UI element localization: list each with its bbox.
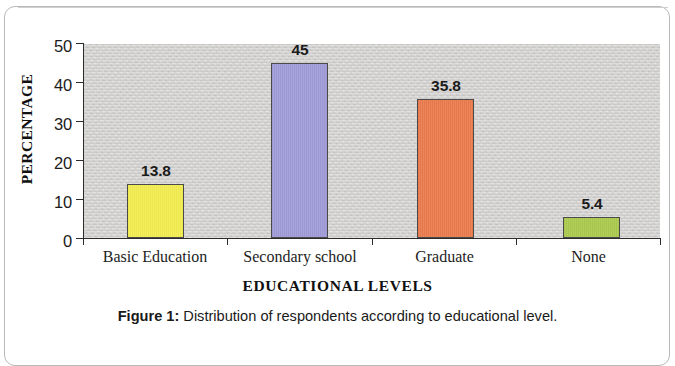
y-tick-label-30: 30 [38,115,72,134]
y-tick-mark-20 [76,160,83,161]
figure-caption-label: Figure 1: [118,308,180,324]
x-tick-mark-4 [660,238,661,245]
y-axis-title: PERCENTAGE [18,44,36,214]
bar-value-secondary-school: 45 [265,41,335,59]
x-tick-mark-3 [516,238,517,245]
figure-caption: Figure 1: Distribution of respondents ac… [0,308,675,324]
x-tick-mark-0 [83,238,84,245]
x-tick-mark-2 [372,238,373,245]
x-category-label-none: None [518,248,659,266]
y-tick-mark-30 [76,121,83,122]
bar-basic-education [127,184,184,238]
bar-value-none: 5.4 [557,195,627,213]
y-tick-label-50: 50 [38,37,72,56]
x-tick-mark-1 [227,238,228,245]
x-category-label-graduate: Graduate [374,248,515,266]
y-tick-mark-40 [76,82,83,83]
bar-secondary-school [271,63,328,238]
y-tick-label-20: 20 [38,154,72,173]
y-tick-label-0: 0 [38,232,72,251]
bar-none [563,217,620,238]
y-tick-mark-0 [76,238,83,239]
y-tick-label-40: 40 [38,76,72,95]
bar-value-basic-education: 13.8 [121,162,191,180]
figure-caption-text: Distribution of respondents according to… [179,308,557,324]
bar-graduate [417,99,474,238]
y-tick-mark-50 [76,43,83,44]
y-tick-label-10: 10 [38,193,72,212]
y-tick-mark-10 [76,199,83,200]
x-category-label-secondary-school: Secondary school [229,248,371,266]
x-category-label-basic-education: Basic Education [85,248,225,266]
y-axis-line [83,43,84,239]
bar-value-graduate: 35.8 [411,77,481,95]
x-axis-title: EDUCATIONAL LEVELS [0,277,675,295]
